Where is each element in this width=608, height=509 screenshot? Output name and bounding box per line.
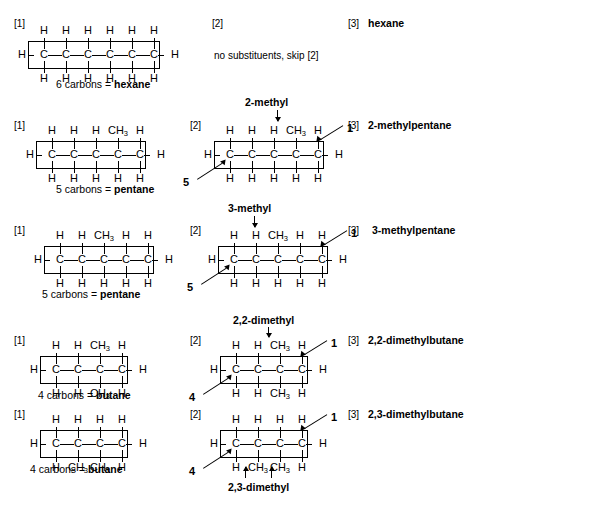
top-substituent: H (121, 24, 143, 37)
bottom-substituent: CH3 (247, 461, 269, 477)
parent-chain-box (218, 246, 328, 274)
numbering-label-last: 4 (189, 465, 195, 477)
top-substituent: H (111, 413, 133, 426)
substituent-label-row5: 2,3-dimethyl (228, 481, 289, 493)
terminal-hydrogen-right: H (150, 148, 172, 161)
caption-row1: 6 carbons = hexane (56, 78, 150, 90)
caption-row5-prefix: 4 carbons = (30, 463, 88, 475)
step-tag-3-row1: [3] (348, 18, 359, 29)
substituent-arrow-row2 (277, 110, 278, 121)
bottom-substituent: H (267, 277, 289, 290)
terminal-hydrogen-right: H (312, 437, 334, 450)
parent-chain-box (36, 141, 146, 169)
top-substituent: H (33, 24, 55, 37)
top-substituent: H (219, 124, 241, 137)
terminal-hydrogen-right: H (332, 253, 354, 266)
iupac-name-row1: hexane (368, 17, 404, 29)
top-substituent: H (137, 229, 159, 242)
caption-row2-prefix: 5 carbons = (56, 183, 114, 195)
top-substituent: H (241, 124, 263, 137)
top-substituent: H (225, 339, 247, 352)
substituent-arrow-row5-a (245, 467, 246, 478)
terminal-hydrogen-right: H (158, 253, 180, 266)
substituent-label-row2: 2-methyl (245, 96, 288, 108)
parent-chain-box (220, 430, 308, 458)
top-substituent: H (111, 339, 133, 352)
terminal-hydrogen-right: H (328, 148, 350, 161)
top-substituent: H (89, 413, 111, 426)
structure-3-methylpentane-step2: HHCH3HHHHHHHCCCCCHH15 (204, 229, 352, 293)
step-tag-2-row3: [2] (190, 225, 201, 236)
step-tag-1-row5: [1] (14, 409, 25, 420)
substituent-label-row3: 3-methyl (228, 202, 271, 214)
caption-row3-prefix: 5 carbons = (42, 288, 100, 300)
step-tag-3-row3: [3] (348, 225, 359, 236)
substituent-arrow-row5-b (271, 467, 272, 478)
parent-chain-box (220, 356, 308, 384)
structure-2-methylpentane-step2: HHHCH3HHHHHHCCCCCHH15 (200, 124, 348, 188)
bottom-substituent: H (307, 172, 329, 185)
caption-row4-name: butane (96, 389, 130, 401)
numbering-label-last: 5 (187, 281, 193, 293)
step-tag-3-row5: [3] (348, 409, 359, 420)
terminal-hydrogen-right: H (312, 363, 334, 376)
step-tag-2-row4: [2] (190, 335, 201, 346)
bottom-substituent: H (263, 172, 285, 185)
skip-note-row1: no substituents, skip [2] (214, 50, 319, 62)
bottom-substituent: H (241, 172, 263, 185)
caption-row2: 5 carbons = pentane (56, 183, 154, 195)
top-substituent: H (247, 413, 269, 426)
top-substituent: H (245, 229, 267, 242)
caption-row4-prefix: 4 carbons = (38, 389, 96, 401)
top-substituent: H (143, 24, 165, 37)
bottom-substituent: H (225, 387, 247, 400)
diagram-canvas: [1] HHHHHHHHHHHHCCCCCCHH 6 carbons = hex… (0, 0, 608, 509)
bottom-substituent: H (247, 387, 269, 400)
top-substituent: H (223, 229, 245, 242)
step-tag-1-row3: [1] (14, 225, 25, 236)
step-tag-1-row4: [1] (14, 335, 25, 346)
top-substituent: H (45, 339, 67, 352)
parent-chain-box (28, 41, 160, 69)
iupac-name-row5: 2,3-dimethylbutane (368, 408, 464, 420)
top-substituent: H (99, 24, 121, 37)
bottom-substituent: H (223, 277, 245, 290)
numbering-label-last: 5 (183, 176, 189, 188)
top-substituent: H (49, 229, 71, 242)
caption-row1-prefix: 6 carbons = (56, 78, 114, 90)
top-substituent: H (115, 229, 137, 242)
numbering-label-first: 1 (331, 337, 337, 349)
top-substituent: H (71, 229, 93, 242)
bottom-substituent: H (285, 172, 307, 185)
top-substituent: H (129, 124, 151, 137)
parent-chain-box (214, 141, 324, 169)
numbering-label-last: 4 (189, 391, 195, 403)
iupac-name-row3: 3-methylpentane (372, 224, 455, 236)
step-tag-3-row4: [3] (348, 335, 359, 346)
parent-chain-box (44, 246, 154, 274)
bottom-substituent: H (311, 277, 333, 290)
bottom-substituent: CH3 (269, 387, 291, 403)
caption-row3: 5 carbons = pentane (42, 288, 140, 300)
structure-2-methylpentane-step1: HHHCH3HHHHHHCCCCCHH (22, 124, 170, 188)
top-substituent: H (63, 124, 85, 137)
substituent-label-row4: 2,2-dimethyl (233, 314, 294, 326)
caption-row1-name: hexane (114, 78, 150, 90)
terminal-hydrogen-right: H (132, 363, 154, 376)
top-substituent: H (77, 24, 99, 37)
terminal-hydrogen-right: H (164, 48, 186, 61)
top-substituent: H (289, 229, 311, 242)
parent-chain-box (40, 430, 128, 458)
substituent-arrow-row3 (254, 216, 255, 227)
bottom-substituent: H (219, 172, 241, 185)
bottom-substituent: H (291, 387, 313, 400)
iupac-name-row4: 2,2-dimethylbutane (368, 334, 464, 346)
top-substituent: H (55, 24, 77, 37)
top-substituent: H (67, 413, 89, 426)
step-tag-2-row5: [2] (190, 409, 201, 420)
step-tag-2-row1: [2] (212, 18, 223, 29)
structure-22-dimethylbutane-step2: HHCH3HHHCH3HCCCCHH14 (206, 339, 332, 403)
iupac-name-row2: 2-methylpentane (368, 119, 451, 131)
caption-row3-name: pentane (100, 288, 140, 300)
top-substituent: H (225, 413, 247, 426)
